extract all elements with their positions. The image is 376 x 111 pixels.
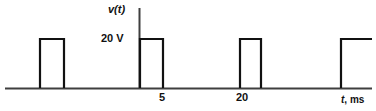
x-axis-units: , ms: [344, 94, 364, 105]
waveform-plot-svg: [0, 0, 376, 111]
x-tick-label-5: 5: [159, 92, 165, 103]
x-tick-label-20: 20: [236, 92, 248, 103]
pulse-2: [140, 39, 163, 88]
amplitude-label: 20 V: [101, 33, 124, 44]
waveform-figure: v(t) 20 V 5 20 t, ms: [0, 0, 376, 111]
y-axis-label: v(t): [108, 4, 125, 15]
pulse-1: [40, 39, 64, 88]
pulse-3: [240, 39, 261, 88]
x-axis-label: t, ms: [341, 95, 364, 105]
pulse-4-clipped: [341, 39, 372, 88]
